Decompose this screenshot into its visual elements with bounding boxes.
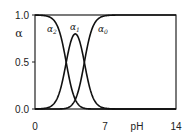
curve-label-alpha2: α2 (47, 24, 57, 35)
x-tick-label: 7 (102, 121, 108, 132)
x-axis-label: pH (131, 121, 144, 132)
curve-label-alpha0: α0 (98, 24, 108, 35)
y-tick-label: 0.0 (15, 104, 29, 115)
x-tick-label: 0 (32, 121, 38, 132)
speciation-chart: 1.0 0.5 0.0 α 0 7 14 pH α2 α1 α0 (0, 0, 186, 136)
curve-alpha1 (35, 34, 176, 109)
y-axis-label: α (15, 27, 23, 40)
x-tick-label: 14 (170, 121, 182, 132)
curve-label-alpha1: α1 (70, 22, 80, 33)
y-tick-label: 0.5 (15, 57, 29, 68)
y-tick-label: 1.0 (15, 10, 29, 21)
